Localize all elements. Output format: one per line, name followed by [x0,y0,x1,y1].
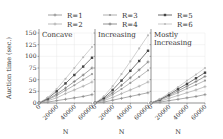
legend-item: R=1 [48,12,83,20]
x-tick-label: 20000 [97,103,116,122]
legend: R=1R=2R=3R=4R=5R=6 [48,12,193,29]
data-point-marker-icon [168,92,170,94]
panel-title: Mostly [154,31,178,39]
data-point-marker-icon [204,80,206,82]
data-point-marker-icon [129,60,131,62]
legend-marker-icon [54,23,57,26]
data-point-marker-icon [150,102,152,104]
data-point-marker-icon [55,96,58,99]
x-axis-title: N [175,128,181,136]
data-point-marker-icon [195,73,197,75]
data-point-marker-icon [103,95,105,97]
data-point-marker-icon [120,88,122,90]
data-point-marker-icon [82,65,84,67]
data-point-marker-icon [82,85,85,88]
legend-item: R=2 [48,21,83,29]
x-tick-label: 40000 [59,103,78,122]
data-point-marker-icon [91,73,93,75]
y-tick-label: 100 [25,52,37,59]
data-point-marker-icon [204,93,207,96]
legend-marker-icon [164,23,166,25]
data-point-marker-icon [129,70,131,72]
panel-2: 0200004000060000NIncreasing [90,29,151,136]
panel-title: Concave [42,31,72,39]
y-tick-label: 25 [29,87,37,94]
legend-label: R=1 [67,12,83,20]
data-point-marker-icon [147,50,149,52]
data-point-marker-icon [112,85,114,87]
data-point-marker-icon [64,92,67,95]
legend-label: R=3 [122,12,138,20]
data-point-marker-icon [204,67,206,69]
data-point-marker-icon [177,98,180,101]
legend-item: R=3 [103,12,138,20]
x-tick-label: 20000 [41,103,60,122]
chart-figure: R=1R=2R=3R=4R=5R=6 025507510012515002000… [0,0,223,139]
data-point-marker-icon [195,95,198,98]
data-point-marker-icon [64,82,66,84]
data-point-marker-icon [111,89,113,91]
data-point-marker-icon [56,88,58,90]
data-point-marker-icon [120,73,122,75]
data-point-marker-icon [138,60,140,62]
y-tick-label: 75 [29,64,37,71]
data-point-marker-icon [55,99,58,102]
panel-3: 0200004000060000NMostlyIncreasing [146,29,208,136]
data-point-marker-icon [195,88,198,91]
data-point-marker-icon [120,97,123,100]
panels: 02550751001251500200004000060000NConcave… [25,29,208,136]
legend-marker-icon [109,23,112,26]
data-point-marker-icon [177,94,180,97]
y-tick-label: 125 [25,41,37,48]
series-R=6 [38,46,93,104]
data-point-marker-icon [120,79,122,81]
data-point-marker-icon [138,85,141,88]
data-point-marker-icon [55,90,57,92]
panel-title: Increasing [154,39,192,47]
x-tick-label: 20000 [153,103,172,122]
data-point-marker-icon [73,88,76,91]
legend-label: R=5 [177,12,193,20]
data-point-marker-icon [64,98,67,101]
legend-item: R=5 [158,12,193,20]
data-point-marker-icon [204,85,207,88]
data-point-marker-icon [38,102,40,104]
data-point-marker-icon [129,82,131,84]
data-point-marker-icon [91,57,93,59]
legend-label: R=2 [67,21,83,29]
data-point-marker-icon [147,81,150,84]
y-axis-title: Auction time (sec.) [5,36,13,100]
legend-item: R=6 [158,21,193,29]
data-point-marker-icon [111,99,114,102]
legend-label: R=6 [177,21,193,29]
data-point-marker-icon [129,88,132,91]
data-point-marker-icon [138,47,140,49]
data-point-marker-icon [129,95,132,98]
data-point-marker-icon [195,84,197,86]
panel-1: 02550751001251500200004000060000NConcave [25,29,95,136]
data-point-marker-icon [73,74,75,76]
data-point-marker-icon [111,96,114,99]
data-point-marker-icon [195,77,197,79]
data-point-marker-icon [186,91,189,94]
x-axis-title: N [63,128,69,136]
data-point-marker-icon [147,69,149,71]
data-point-marker-icon [91,93,94,96]
legend-item: R=4 [103,21,138,29]
data-point-marker-icon [204,75,207,78]
series-R=5 [38,57,93,105]
data-point-marker-icon [91,81,94,84]
data-point-marker-icon [120,92,123,95]
legend-marker-icon [164,14,166,16]
data-point-marker-icon [91,46,93,48]
series-line [151,68,205,103]
data-point-marker-icon [73,84,75,86]
legend-label: R=4 [122,21,138,29]
legend-marker-icon [109,14,111,16]
data-point-marker-icon [73,67,75,69]
data-point-marker-icon [82,56,84,58]
x-tick-label: 40000 [115,103,134,122]
data-point-marker-icon [195,80,198,83]
data-point-marker-icon [186,85,189,88]
x-tick-label: 40000 [171,103,190,122]
